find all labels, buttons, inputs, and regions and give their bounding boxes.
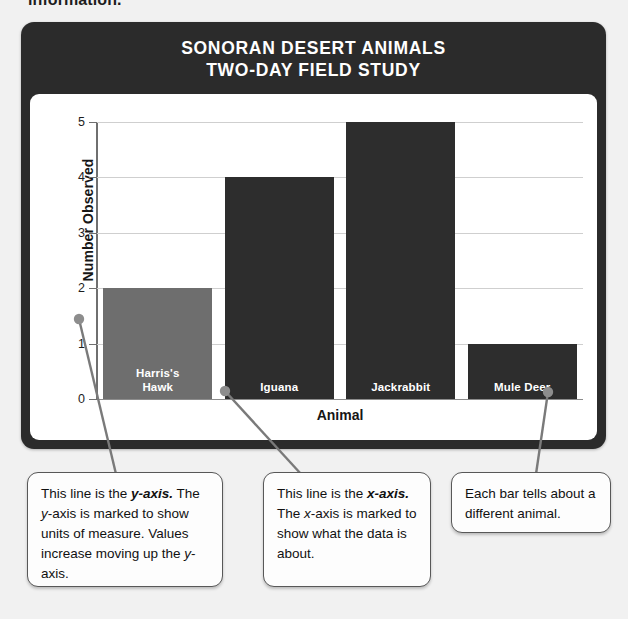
y-tick-label-3: 3 — [78, 226, 85, 240]
y-tick-3 — [89, 233, 97, 234]
gridline-0 — [97, 399, 583, 400]
bar-jackrabbit[interactable]: Jackrabbit — [346, 122, 455, 399]
y-tick-label-5: 5 — [78, 115, 85, 129]
bar-label-3: Mule Deer — [468, 380, 577, 394]
bar-label-0: Harris'sHawk — [103, 366, 212, 394]
callout-bar-text: Each bar tells about a different animal. — [465, 486, 596, 521]
x-axis-title: Animal — [97, 407, 583, 423]
y-tick-1 — [89, 344, 97, 345]
y-tick-0 — [89, 399, 97, 400]
chart-title: SONORAN DESERT ANIMALS TWO-DAY FIELD STU… — [21, 37, 606, 81]
chart-title-line-2: TWO-DAY FIELD STUDY — [21, 59, 606, 81]
callout-x-text-2: The — [277, 506, 304, 521]
y-tick-label-0: 0 — [78, 392, 85, 406]
bar-iguana[interactable]: Iguana — [225, 177, 334, 399]
callout-x-axis: This line is the x-axis. The x-axis is m… — [263, 472, 431, 587]
bar-label-1: Iguana — [225, 380, 334, 394]
callout-x-term: x-axis. — [367, 486, 409, 501]
bar-label-line: Harris's — [103, 366, 212, 380]
y-tick-label-1: 1 — [78, 337, 85, 351]
y-tick-2 — [89, 288, 97, 289]
bar-series: Harris'sHawkIguanaJackrabbitMule Deer — [97, 122, 583, 399]
page-top-text-fragment: information. — [28, 0, 122, 7]
bar-label-line: Iguana — [225, 380, 334, 394]
callout-y-term-2: y — [41, 506, 48, 521]
callout-bars: Each bar tells about a different animal. — [451, 472, 611, 533]
y-tick-label-2: 2 — [78, 281, 85, 295]
plot-panel: Number Observed 012345 Harris'sHawkIguan… — [30, 94, 597, 440]
y-tick-label-4: 4 — [78, 170, 85, 184]
bar-label-line: Jackrabbit — [346, 380, 455, 394]
chart-title-line-1: SONORAN DESERT ANIMALS — [181, 38, 446, 58]
y-tick-5 — [89, 122, 97, 123]
chart-card: SONORAN DESERT ANIMALS TWO-DAY FIELD STU… — [21, 22, 606, 449]
callout-y-term: y-axis. — [131, 486, 173, 501]
bar-label-line: Mule Deer — [468, 380, 577, 394]
y-tick-4 — [89, 177, 97, 178]
bar-harris-s-hawk[interactable]: Harris'sHawk — [103, 288, 212, 399]
callout-y-text-3: -axis is marked to show units of measure… — [41, 506, 189, 561]
plot-area: 012345 Harris'sHawkIguanaJackrabbitMule … — [97, 122, 583, 399]
callout-y-axis: This line is the y-axis. The y-axis is m… — [27, 472, 223, 587]
callout-y-text-1: This line is the — [41, 486, 131, 501]
callout-x-term-2: x — [304, 506, 311, 521]
bar-mule-deer[interactable]: Mule Deer — [468, 344, 577, 399]
bar-label-2: Jackrabbit — [346, 380, 455, 394]
bar-label-line: Hawk — [103, 380, 212, 394]
callout-x-text-1: This line is the — [277, 486, 367, 501]
callout-y-text-2: The — [173, 486, 200, 501]
